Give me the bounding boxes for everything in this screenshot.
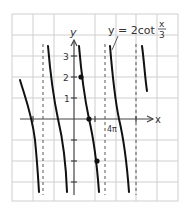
y-axis-label: y bbox=[69, 26, 77, 39]
x-axis-label: x bbox=[155, 114, 161, 125]
equation-numerator: x bbox=[159, 19, 165, 29]
curve-branch bbox=[20, 80, 39, 192]
key-point bbox=[78, 74, 83, 79]
curve-branch bbox=[142, 46, 147, 91]
x-tick-label-4pi: 4π bbox=[107, 125, 117, 134]
y-tick-label-3: 3 bbox=[63, 52, 69, 62]
equation-pointer bbox=[112, 36, 118, 50]
axes bbox=[20, 40, 153, 195]
y-tick-label-2: 2 bbox=[63, 73, 69, 83]
cotangent-graph: y x 3 2 1 4π y = 2cot x 3 bbox=[0, 0, 187, 213]
y-tick-label-1: 1 bbox=[64, 94, 70, 104]
key-point bbox=[86, 116, 91, 121]
key-point bbox=[94, 158, 99, 163]
equation-denominator: 3 bbox=[159, 30, 165, 40]
equation-lhs: y = 2cot bbox=[108, 24, 155, 37]
